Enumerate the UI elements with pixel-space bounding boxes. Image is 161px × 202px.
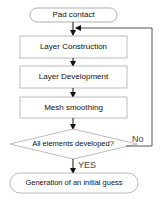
yes-edge-label: YES: [78, 160, 96, 170]
smoothing-node-label: Mesh smoothing: [20, 102, 127, 114]
no-edge-label: No: [132, 134, 144, 144]
flowchart-canvas: [0, 0, 161, 202]
construction-node-label: Layer Construction: [20, 41, 127, 53]
decision-node-label: All elements developed?: [18, 138, 128, 150]
start-node-label: Pad contact: [30, 9, 117, 21]
development-node-label: Layer Development: [20, 71, 127, 83]
end-node-label: Generation of an initial guess: [10, 177, 138, 189]
